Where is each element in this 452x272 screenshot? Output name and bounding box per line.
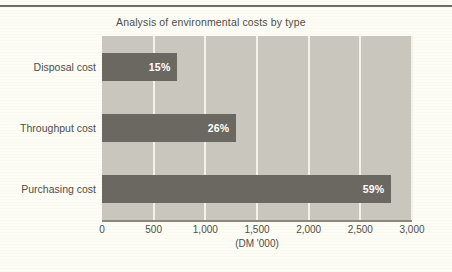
x-tick-label: 1,500 [244, 224, 269, 235]
gridline [411, 36, 413, 220]
category-label: Disposal cost [2, 61, 96, 73]
top-divider-rule [0, 5, 452, 7]
x-tick-label: 2,000 [296, 224, 321, 235]
x-axis-tick-labels: 05001,0001,5002,0002,5003,000 [102, 224, 412, 238]
category-label: Purchasing cost [2, 183, 96, 195]
bar: 59% [102, 175, 391, 203]
bar: 26% [102, 114, 236, 142]
category-axis-labels: Disposal costThroughput costPurchasing c… [0, 36, 96, 220]
x-tick-label: 500 [145, 224, 162, 235]
category-label: Throughput cost [2, 122, 96, 134]
x-tick-label: 3,000 [399, 224, 424, 235]
x-tick-label: 1,000 [193, 224, 218, 235]
bar-value-label: 59% [363, 183, 385, 195]
x-tick-label: 0 [99, 224, 105, 235]
bar-value-label: 15% [149, 61, 171, 73]
chart-page: Analysis of environmental costs by type … [0, 0, 452, 272]
x-axis-line [102, 220, 412, 222]
chart-title: Analysis of environmental costs by type [116, 16, 306, 28]
x-axis-title: (DM '000) [102, 238, 412, 249]
bar-value-label: 26% [208, 122, 230, 134]
plot-area: 15%26%59% [102, 36, 412, 220]
x-tick-label: 2,500 [348, 224, 373, 235]
bar: 15% [102, 53, 177, 81]
